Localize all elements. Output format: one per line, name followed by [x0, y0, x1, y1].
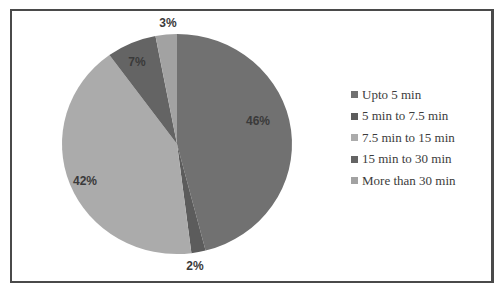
legend-label: 7.5 min to 15 min [362, 130, 455, 146]
pie-slices [62, 34, 292, 254]
legend-label: 5 min to 7.5 min [362, 108, 448, 124]
legend-swatch-icon [351, 177, 358, 184]
legend-swatch-icon [351, 156, 358, 163]
legend-swatch-icon [351, 113, 358, 120]
legend-item: Upto 5 min [351, 84, 456, 106]
slice-percent-label: 7% [128, 55, 146, 69]
legend-item: 15 min to 30 min [351, 149, 456, 171]
legend-item: 7.5 min to 15 min [351, 127, 456, 149]
slice-percent-label: 3% [159, 16, 177, 30]
slice-percent-label: 2% [186, 259, 204, 273]
legend-swatch-icon [351, 91, 358, 98]
legend-label: Upto 5 min [362, 87, 421, 103]
slice-percent-label: 42% [73, 174, 97, 188]
legend-item: More than 30 min [351, 170, 456, 192]
legend-label: More than 30 min [362, 173, 456, 189]
legend-swatch-icon [351, 134, 358, 141]
legend-label: 15 min to 30 min [362, 151, 452, 167]
legend-item: 5 min to 7.5 min [351, 106, 456, 128]
legend: Upto 5 min 5 min to 7.5 min 7.5 min to 1… [351, 84, 456, 192]
slice-percent-label: 46% [246, 114, 270, 128]
